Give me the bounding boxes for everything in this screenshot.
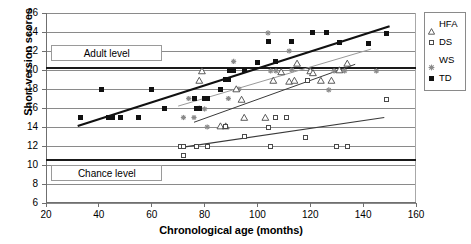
x-tick-mark	[257, 203, 258, 207]
chart-legend: HFADSWSTD	[424, 12, 466, 91]
data-point-ds	[181, 153, 186, 158]
data-point-ds	[223, 124, 228, 129]
data-point-td	[273, 59, 278, 64]
legend-filled-square-icon	[429, 76, 434, 81]
data-point-td	[289, 39, 294, 44]
legend-open-square-icon	[429, 40, 434, 45]
data-point-td	[136, 115, 141, 120]
data-point-hfa	[262, 114, 269, 120]
legend-open-triangle-icon	[428, 21, 435, 28]
x-tick-mark	[416, 203, 417, 207]
data-point-td	[366, 41, 371, 46]
legend-label: WS	[439, 53, 454, 67]
data-point-ds	[384, 97, 389, 102]
data-point-ds	[268, 144, 273, 149]
x-tick-label: 40	[81, 210, 117, 220]
data-point-hfa	[294, 60, 301, 66]
data-point-td	[118, 115, 123, 120]
data-point-hfa	[278, 69, 285, 75]
data-point-td	[149, 87, 154, 92]
data-point-hfa	[291, 77, 298, 83]
data-point-td	[192, 96, 197, 101]
data-point-ds	[303, 135, 308, 140]
data-point-ds	[305, 78, 310, 83]
data-point-td	[337, 40, 342, 45]
data-point-ds	[334, 144, 339, 149]
x-tick-label: 160	[398, 210, 434, 220]
y-tick-label: 8	[16, 179, 38, 189]
data-point-ds	[194, 144, 199, 149]
data-point-td	[197, 106, 202, 111]
y-tick-label: 12	[16, 141, 38, 151]
y-tick-label: 24	[16, 27, 38, 37]
data-point-hfa	[241, 114, 248, 120]
y-tick-label: 14	[16, 122, 38, 132]
data-point-hfa	[199, 68, 206, 74]
annotation-chance-level: Chance level	[51, 165, 162, 181]
y-tick-label: 22	[16, 46, 38, 56]
legend-item-hfa[interactable]: HFA	[428, 17, 466, 31]
legend-star-icon	[428, 57, 435, 64]
data-point-td	[242, 68, 247, 73]
y-tick-label: 16	[16, 103, 38, 113]
data-point-td	[231, 68, 236, 73]
x-tick-label: 120	[292, 210, 328, 220]
data-point-td	[78, 115, 83, 120]
data-point-td	[110, 115, 115, 120]
data-point-ds	[266, 125, 271, 130]
data-point-hfa	[196, 77, 203, 83]
y-tick-label: 26	[16, 8, 38, 18]
data-point-hfa	[336, 67, 343, 73]
data-point-td	[162, 106, 167, 111]
y-tick-label: 10	[16, 160, 38, 170]
x-tick-mark	[363, 203, 364, 207]
x-tick-label: 60	[134, 210, 170, 220]
data-point-ds	[181, 144, 186, 149]
x-tick-label: 140	[345, 210, 381, 220]
x-axis-title: Chronological age (months)	[46, 224, 416, 236]
data-point-ds	[284, 115, 289, 120]
data-point-ds	[273, 115, 278, 120]
x-tick-label: 100	[239, 210, 275, 220]
x-tick-label: 20	[28, 210, 64, 220]
data-point-td	[324, 30, 329, 35]
data-point-hfa	[344, 60, 351, 66]
data-point-td	[218, 87, 223, 92]
data-point-ds	[205, 144, 210, 149]
legend-item-ds[interactable]: DS	[428, 35, 466, 49]
data-point-hfa	[270, 77, 277, 83]
x-tick-mark	[151, 203, 152, 207]
data-point-hfa	[317, 77, 324, 83]
data-point-ds	[345, 144, 350, 149]
legend-label: HFA	[439, 17, 457, 31]
data-point-hfa	[328, 77, 335, 83]
chart-figure: Short version scores Chronological age (…	[0, 0, 471, 244]
data-point-ds	[242, 134, 247, 139]
legend-label: DS	[439, 35, 452, 49]
x-tick-mark	[98, 203, 99, 207]
data-point-td	[226, 77, 231, 82]
x-tick-mark	[204, 203, 205, 207]
y-tick-label: 20	[16, 65, 38, 75]
legend-item-td[interactable]: TD	[428, 71, 466, 85]
x-tick-label: 80	[187, 210, 223, 220]
x-tick-mark	[310, 203, 311, 207]
annotation-adult-level: Adult level	[51, 45, 162, 61]
legend-item-ws[interactable]: WS	[428, 53, 466, 67]
x-tick-mark	[46, 203, 47, 207]
data-point-td	[310, 30, 315, 35]
data-point-td	[99, 87, 104, 92]
data-point-td	[255, 60, 260, 65]
y-tick-label: 6	[16, 198, 38, 208]
data-point-td	[384, 31, 389, 36]
plot-area: Adult level Chance level	[46, 13, 416, 203]
legend-label: TD	[439, 71, 452, 85]
data-point-td	[266, 39, 271, 44]
data-point-td	[205, 96, 210, 101]
y-tick-label: 18	[16, 84, 38, 94]
data-point-hfa	[238, 96, 245, 102]
